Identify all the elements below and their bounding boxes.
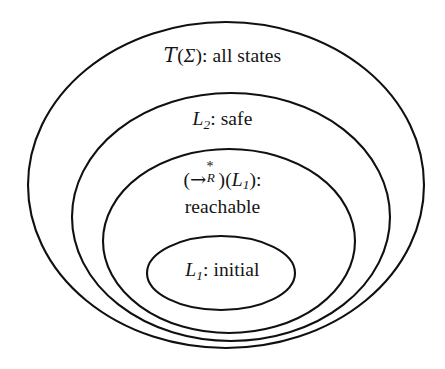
ellipse-initial <box>147 236 295 310</box>
nested-ellipses-diagram <box>0 0 445 369</box>
nested-sets-figure: T(Σ): all states L2: safe (→*R)(L1): rea… <box>0 0 445 369</box>
